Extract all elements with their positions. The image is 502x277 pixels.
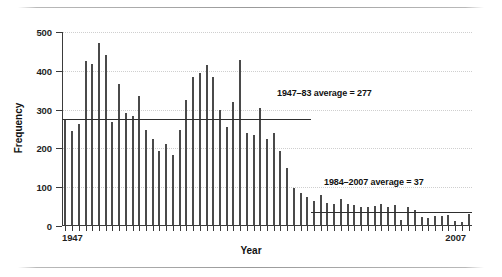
- x-tick-1969: [213, 226, 214, 231]
- bar-1983: [306, 197, 308, 226]
- bar-1977: [266, 139, 268, 226]
- x-tick-1960: [153, 226, 154, 231]
- bar-1963: [172, 155, 174, 226]
- bar-1951: [91, 64, 93, 226]
- bar-1980: [286, 168, 288, 226]
- bar-1968: [206, 65, 208, 226]
- x-tick-2005: [455, 226, 456, 231]
- x-tick-1955: [119, 226, 120, 231]
- x-tick-1988: [341, 226, 342, 231]
- x-tick-1987: [334, 226, 335, 231]
- bar-1958: [138, 96, 140, 226]
- y-tick-0: [56, 226, 62, 227]
- bar-1949: [78, 124, 80, 226]
- bar-1950: [85, 61, 87, 226]
- bar-1987: [333, 204, 335, 226]
- reference-line-37: [311, 212, 472, 213]
- top-divider-rule: [18, 7, 484, 8]
- x-tick-1974: [247, 226, 248, 231]
- y-tick-label-0: 0: [47, 221, 52, 232]
- bar-1970: [219, 110, 221, 226]
- x-tick-1998: [408, 226, 409, 231]
- y-axis-title: Frequency: [13, 103, 24, 154]
- bar-1991: [360, 207, 362, 226]
- x-tick-1992: [368, 226, 369, 231]
- bar-1981: [293, 188, 295, 226]
- x-axis-end-label: 2007: [445, 232, 466, 243]
- bar-1959: [145, 130, 147, 226]
- x-tick-1997: [401, 226, 402, 231]
- bar-1996: [394, 205, 396, 226]
- x-tick-1970: [220, 226, 221, 231]
- bar-1989: [347, 204, 349, 227]
- x-tick-1952: [99, 226, 100, 231]
- x-tick-2007: [469, 226, 470, 231]
- x-tick-1985: [321, 226, 322, 231]
- x-tick-1947: [65, 226, 66, 231]
- x-tick-2002: [435, 226, 436, 231]
- bar-1994: [380, 204, 382, 226]
- x-tick-1981: [294, 226, 295, 231]
- x-tick-1977: [267, 226, 268, 231]
- x-tick-1993: [375, 226, 376, 231]
- bar-1993: [374, 206, 376, 226]
- bar-1978: [273, 133, 275, 227]
- bar-1957: [132, 116, 134, 226]
- bar-1999: [414, 210, 416, 226]
- bar-1982: [300, 193, 302, 226]
- x-tick-1975: [254, 226, 255, 231]
- x-tick-1961: [159, 226, 160, 231]
- x-tick-1968: [207, 226, 208, 231]
- x-tick-2004: [448, 226, 449, 231]
- x-tick-2006: [462, 226, 463, 231]
- x-tick-1953: [106, 226, 107, 231]
- x-tick-1965: [186, 226, 187, 231]
- x-tick-2003: [442, 226, 443, 231]
- bar-1974: [246, 133, 248, 226]
- x-tick-1995: [388, 226, 389, 231]
- x-tick-1972: [233, 226, 234, 231]
- bar-1962: [165, 144, 167, 226]
- bar-1956: [125, 113, 127, 226]
- annotation-avg-1984-2007: 1984–2007 average = 37: [324, 177, 424, 187]
- bar-1984: [313, 201, 315, 226]
- x-tick-2001: [428, 226, 429, 231]
- gridline-300: [62, 110, 472, 112]
- bar-1966: [192, 77, 194, 226]
- bar-1985: [320, 195, 322, 226]
- x-tick-1958: [139, 226, 140, 231]
- bar-1995: [387, 207, 389, 226]
- bar-1955: [118, 84, 120, 226]
- bar-1986: [326, 203, 328, 226]
- x-tick-1963: [173, 226, 174, 231]
- y-axis-spine: [62, 32, 63, 226]
- bar-1953: [105, 55, 107, 226]
- bar-1971: [226, 127, 228, 226]
- x-tick-1957: [133, 226, 134, 231]
- bar-1967: [199, 73, 201, 226]
- x-tick-1999: [415, 226, 416, 231]
- bar-1961: [158, 151, 160, 226]
- bar-1998: [407, 207, 409, 226]
- bar-1948: [71, 131, 73, 226]
- bar-1969: [212, 77, 214, 226]
- x-tick-1964: [180, 226, 181, 231]
- x-tick-1989: [348, 226, 349, 231]
- x-axis-start-label: 1947: [62, 232, 83, 243]
- bottom-divider-rule: [18, 267, 484, 268]
- bar-1979: [279, 151, 281, 226]
- x-tick-1990: [354, 226, 355, 231]
- figure-container: Frequency Year 1947 2007 010020030040050…: [0, 0, 502, 277]
- bar-1964: [179, 130, 181, 226]
- x-tick-1948: [72, 226, 73, 231]
- bar-1952: [98, 43, 100, 226]
- x-tick-1971: [227, 226, 228, 231]
- x-tick-1991: [361, 226, 362, 231]
- bar-1973: [239, 60, 241, 226]
- annotation-avg-1947-83: 1947–83 average = 277: [277, 88, 372, 98]
- y-tick-label-100: 100: [36, 182, 52, 193]
- x-tick-1967: [200, 226, 201, 231]
- gridline-400: [62, 71, 472, 73]
- y-tick-label-300: 300: [36, 104, 52, 115]
- gridline-500: [62, 32, 472, 34]
